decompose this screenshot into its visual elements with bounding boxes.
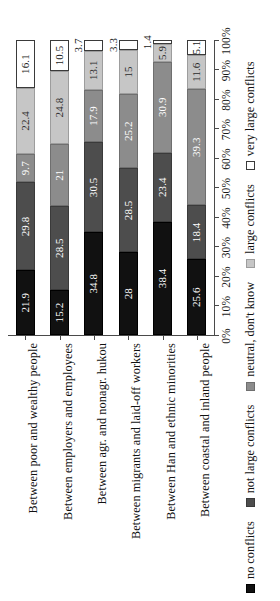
- bar-segment-value: 21: [54, 170, 65, 181]
- category-label-2: Between employers and employees: [60, 343, 75, 520]
- bar-segment-value: 38.4: [157, 269, 168, 289]
- bar-segment-value: 1.4: [142, 35, 153, 49]
- chart-area: Between poor and wealthy peopleBetween e…: [0, 0, 280, 601]
- bar-segment-no-conflicts[interactable]: 38.4: [153, 222, 172, 335]
- category-axis-tick: [60, 336, 61, 340]
- bar-segment-very-large-conflicts[interactable]: 1.4: [153, 40, 172, 44]
- bar-row[interactable]: 34.830.517.913.13.7: [84, 40, 103, 335]
- legend-item-very-large-conflicts[interactable]: very large conflicts: [243, 61, 258, 170]
- value-axis-tick-label: 10%: [220, 296, 232, 318]
- bar-segment-value: 25.2: [123, 121, 134, 141]
- bar-segment-value: 30.5: [88, 178, 99, 198]
- bar-segment-value: 10.5: [54, 46, 65, 66]
- bar-segment-value: 21.9: [20, 293, 31, 313]
- legend-label: not large conflicts: [243, 405, 258, 494]
- legend-item-not-large-conflicts[interactable]: not large conflicts: [243, 405, 258, 508]
- bar-segment-no-conflicts[interactable]: 21.9: [16, 270, 35, 335]
- bar-segment-not-large-conflicts[interactable]: 30.5: [84, 142, 103, 232]
- bar-segment-neutral-don-t-know[interactable]: 9.7: [16, 154, 35, 183]
- bar-segment-no-conflicts[interactable]: 34.8: [84, 232, 103, 335]
- bar-segment-neutral-don-t-know[interactable]: 17.9: [84, 90, 103, 143]
- bar-segment-very-large-conflicts[interactable]: 10.5: [50, 40, 69, 71]
- bar-segment-very-large-conflicts[interactable]: 3.7: [84, 40, 103, 51]
- bar-segment-no-conflicts[interactable]: 28: [119, 252, 138, 335]
- bar-segment-value: 23.4: [157, 177, 168, 197]
- legend-label: no conflicts: [243, 521, 258, 579]
- legend-label: very large conflicts: [243, 61, 258, 156]
- category-label-6: Between coastal and inland people: [197, 343, 212, 517]
- bar-segment-neutral-don-t-know[interactable]: 25.2: [119, 94, 138, 168]
- bar-segment-value: 39.3: [191, 137, 202, 157]
- bar-segment-value: 17.9: [88, 106, 99, 126]
- bar-row[interactable]: 15.228.52124.810.5: [50, 40, 69, 335]
- bar-segment-value: 15: [123, 66, 134, 77]
- bar-segment-value: 15.2: [54, 303, 65, 323]
- swatch-very-large-conflicts-icon: [246, 161, 255, 170]
- category-label-3: Between agr. and nonagr. hukou: [94, 343, 109, 504]
- bar-segment-not-large-conflicts[interactable]: 29.8: [16, 183, 35, 271]
- bar-segment-not-large-conflicts[interactable]: 18.4: [187, 205, 206, 259]
- swatch-neutral-icon: [246, 382, 255, 391]
- bar-segment-value: 28.5: [54, 238, 65, 258]
- bar-segment-large-conflicts[interactable]: 13.1: [84, 51, 103, 90]
- bar-segment-very-large-conflicts[interactable]: 16.1: [16, 40, 35, 87]
- bar-segment-value: 3.7: [73, 38, 84, 52]
- bar-row[interactable]: 2828.525.2153.3: [119, 40, 138, 335]
- value-axis-tick-label: 50%: [220, 178, 232, 200]
- category-axis-tick: [25, 336, 26, 340]
- category-label-5: Between Han and ethnic minorities: [163, 343, 178, 520]
- bar-segment-value: 24.8: [54, 98, 65, 118]
- bar-segment-large-conflicts[interactable]: 22.4: [16, 88, 35, 154]
- legend-item-large-conflicts[interactable]: large conflicts: [243, 184, 258, 268]
- bar-segment-value: 16.1: [20, 54, 31, 74]
- legend-item-no-conflicts[interactable]: no conflicts: [243, 521, 258, 593]
- category-axis-tick: [163, 336, 164, 340]
- value-axis-tick: [215, 217, 219, 218]
- bar-segment-value: 28.5: [123, 201, 134, 221]
- value-axis-tick: [215, 99, 219, 100]
- bar-segment-value: 34.8: [88, 274, 99, 294]
- bar-segment-value: 3.3: [108, 38, 119, 52]
- category-axis-tick: [197, 336, 198, 340]
- value-axis-tick: [215, 158, 219, 159]
- swatch-large-conflicts-icon: [246, 259, 255, 268]
- category-label-4: Between migrants and laid-off workers: [129, 343, 144, 539]
- bar-segment-value: 9.7: [20, 161, 31, 175]
- category-axis-tick: [128, 336, 129, 340]
- swatch-no-conflicts-icon: [246, 584, 255, 593]
- bar-segment-not-large-conflicts[interactable]: 23.4: [153, 153, 172, 222]
- bar-segment-value: 29.8: [20, 217, 31, 237]
- legend-label: large conflicts: [243, 184, 258, 254]
- bar-row[interactable]: 21.929.89.722.416.1: [16, 40, 35, 335]
- legend-item-neutral-don-t-know[interactable]: neutral, don't know: [243, 282, 258, 391]
- bar-segment-value: 30.9: [157, 97, 168, 117]
- value-axis-tick-label: 70%: [220, 119, 232, 141]
- bar-segment-value: 11.6: [191, 63, 202, 82]
- bar-segment-value: 13.1: [88, 60, 99, 80]
- value-axis-tick: [215, 40, 219, 41]
- legend-label: neutral, don't know: [243, 282, 258, 377]
- bar-segment-neutral-don-t-know[interactable]: 21: [50, 144, 69, 206]
- bar-segment-large-conflicts[interactable]: 15: [119, 50, 138, 94]
- bar-row[interactable]: 25.618.439.311.65.1: [187, 40, 206, 335]
- value-axis-tick-label: 100%: [220, 27, 232, 55]
- bar-row[interactable]: 38.423.430.95.91.4: [153, 40, 172, 335]
- bar-segment-no-conflicts[interactable]: 25.6: [187, 259, 206, 335]
- value-axis-tick-label: 30%: [220, 237, 232, 259]
- bar-segment-large-conflicts[interactable]: 11.6: [187, 55, 206, 89]
- swatch-not-large-conflicts-icon: [246, 498, 255, 507]
- bar-segment-large-conflicts[interactable]: 5.9: [153, 44, 172, 61]
- bar-segment-very-large-conflicts[interactable]: 5.1: [187, 40, 206, 55]
- bar-segment-value: 22.4: [20, 111, 31, 131]
- category-axis-tick: [94, 336, 95, 340]
- bar-segment-large-conflicts[interactable]: 24.8: [50, 71, 69, 144]
- bar-segment-not-large-conflicts[interactable]: 28.5: [119, 168, 138, 252]
- bar-segment-no-conflicts[interactable]: 15.2: [50, 290, 69, 335]
- bar-segment-very-large-conflicts[interactable]: 3.3: [119, 40, 138, 50]
- value-axis-tick: [215, 70, 219, 71]
- bar-segment-neutral-don-t-know[interactable]: 39.3: [187, 89, 206, 205]
- bar-segment-neutral-don-t-know[interactable]: 30.9: [153, 62, 172, 153]
- bar-segment-not-large-conflicts[interactable]: 28.5: [50, 206, 69, 290]
- category-axis-line: [8, 335, 214, 336]
- category-axis-labels: Between poor and wealthy peopleBetween e…: [8, 343, 214, 601]
